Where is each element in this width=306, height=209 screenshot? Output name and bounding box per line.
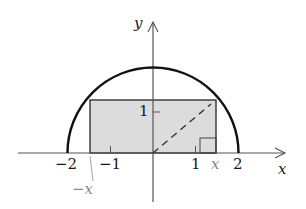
x-axis-label: x (278, 162, 286, 177)
tick-label-1: 1 (191, 157, 201, 172)
tick-label-neg2: −2 (55, 157, 77, 172)
neg-x-annotation: −x (72, 182, 93, 197)
neg-x-pointer (90, 156, 93, 181)
x-annotation: x (211, 157, 219, 172)
tick-label-2: 2 (233, 157, 243, 172)
y-axis-label: y (134, 16, 142, 31)
semicircle-diagram (0, 0, 306, 209)
tick-label-y1: 1 (139, 104, 149, 119)
tick-label-neg1: −1 (99, 157, 121, 172)
